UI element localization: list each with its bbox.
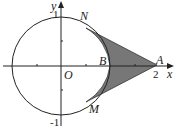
point-a-label: A [156,54,163,66]
x-axis-label: x [167,68,172,80]
point-m-label: M [89,103,99,115]
point-n-label: N [80,10,88,22]
point-b-label: B [99,55,106,67]
y-tick-neg1: -1 [50,117,59,128]
shaded-region [86,28,157,102]
x-tick-2: 2 [153,69,159,80]
diagram: y 1 N O B A 2 x M -1 [0,0,178,130]
origin-label: O [64,69,73,81]
y-tick-1: 1 [53,9,59,20]
y-axis-arrow-icon [58,1,64,8]
